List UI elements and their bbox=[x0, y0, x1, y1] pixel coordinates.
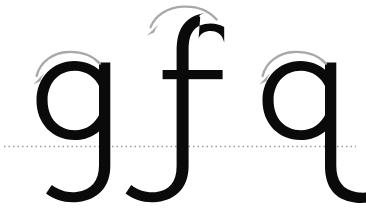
letter-formation-illustration bbox=[0, 0, 366, 218]
letter-f-crossbar bbox=[163, 70, 223, 79]
worksheet-canvas: Lowercase letter formation practice Thre… bbox=[0, 0, 366, 218]
